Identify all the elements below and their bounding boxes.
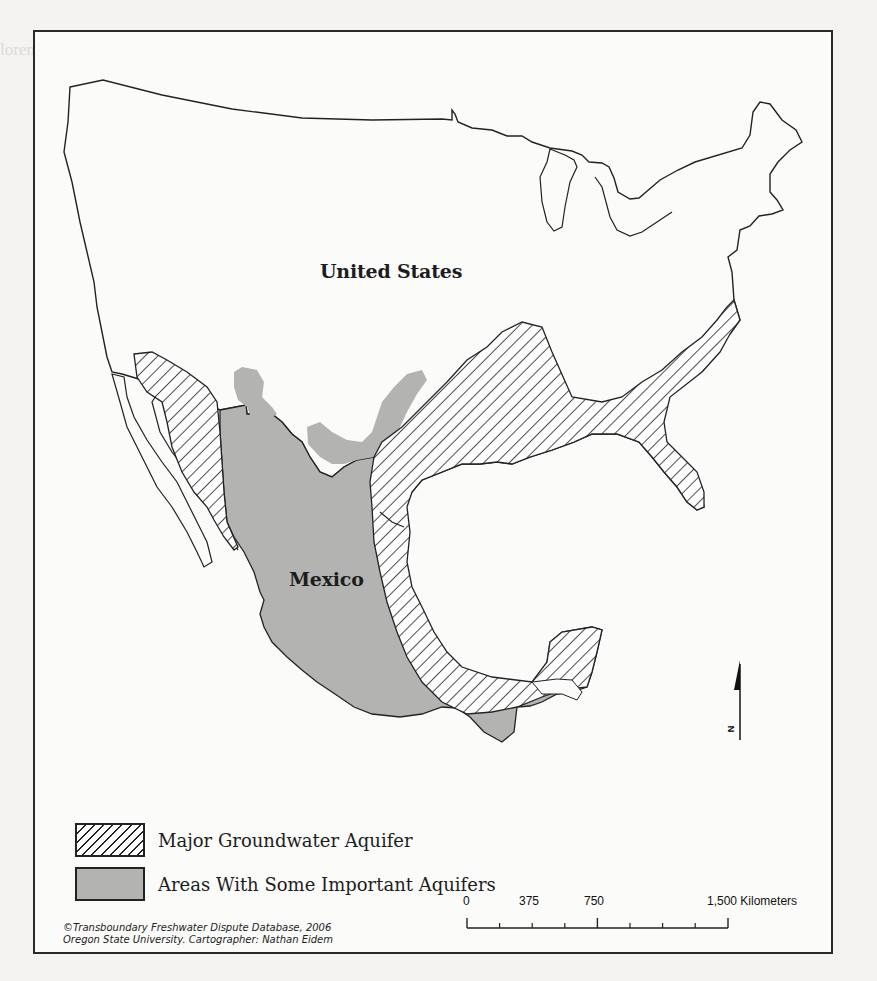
major-aquifer-coastal-plain xyxy=(370,300,740,714)
legend-label: Major Groundwater Aquifer xyxy=(158,830,413,851)
lake-erie-shore xyxy=(595,177,672,236)
map-canvas xyxy=(35,32,831,952)
map-frame: United States Mexico N Major Groundwater… xyxy=(33,30,833,954)
legend-label: Areas With Some Important Aquifers xyxy=(158,874,496,895)
map-credit: ©Transboundary Freshwater Dispute Databa… xyxy=(63,922,333,946)
scale-bar-line xyxy=(463,908,743,948)
hatched-swatch-icon xyxy=(75,823,145,857)
credit-line-2: Oregon State University. Cartographer: N… xyxy=(63,934,333,946)
legend: Major Groundwater Aquifer Areas With Som… xyxy=(75,822,496,910)
scale-bar: 0 375 750 1,500 Kilometers xyxy=(463,894,823,944)
legend-item-important-aquifers: Areas With Some Important Aquifers xyxy=(75,866,496,902)
north-arrow: N xyxy=(730,656,750,746)
scale-tick-750: 750 xyxy=(584,894,604,908)
scale-tick-0: 0 xyxy=(463,894,470,908)
gray-swatch-icon xyxy=(75,867,145,901)
north-label: N xyxy=(726,726,736,733)
scale-tick-1500: 1,500 Kilometers xyxy=(707,894,797,908)
legend-item-major-aquifer: Major Groundwater Aquifer xyxy=(75,822,496,858)
label-mexico: Mexico xyxy=(289,568,364,590)
north-arrow-icon xyxy=(730,656,750,746)
label-united-states: United States xyxy=(320,260,462,282)
credit-line-1: ©Transboundary Freshwater Dispute Databa… xyxy=(63,922,333,934)
lake-michigan xyxy=(540,149,577,231)
scale-tick-375: 375 xyxy=(519,894,539,908)
